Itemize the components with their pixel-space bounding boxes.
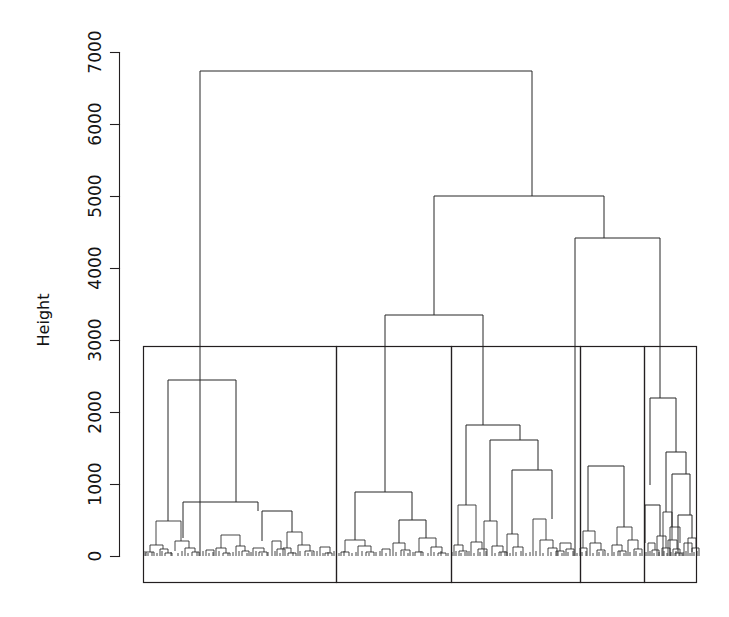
merge-c2-9 — [419, 538, 436, 552]
cluster-cut-rectangles — [144, 347, 697, 583]
y-tick-label-0: 0 — [85, 551, 105, 562]
merge-c5-2 — [652, 550, 659, 556]
y-tick-label-7000: 7000 — [85, 30, 105, 73]
merge-c2-11 — [431, 547, 442, 556]
merge-c1-14 — [242, 551, 249, 556]
y-axis: 7000 6000 5000 4000 3000 2000 1000 0 Hei… — [34, 30, 120, 561]
merge-c1-12 — [223, 553, 230, 556]
merge-c4-5 — [617, 527, 632, 545]
merge-c4-4 — [597, 550, 605, 556]
merge-c4-9 — [634, 549, 642, 556]
merge-c4-6 — [612, 545, 622, 556]
cluster-rect-1 — [144, 347, 337, 583]
merge-node-p — [262, 511, 292, 541]
merge-node-o — [645, 505, 660, 543]
merge-root — [200, 71, 532, 556]
merge-node-e — [168, 380, 236, 521]
dendrogram-tree — [145, 71, 699, 556]
merge-node-f — [650, 398, 676, 485]
merge-c3-2 — [454, 545, 463, 556]
merge-c3-11 — [533, 519, 546, 556]
y-tick-label-3000: 3000 — [85, 318, 105, 361]
merge-c3-1 — [458, 505, 476, 545]
merge-node-b — [434, 196, 604, 315]
dendrogram-plot: 7000 6000 5000 4000 3000 2000 1000 0 Hei… — [0, 0, 729, 617]
merge-c5-11 — [692, 548, 699, 556]
merge-c2-10 — [415, 552, 423, 556]
merge-c3-14 — [560, 543, 571, 551]
merge-c2-12 — [438, 553, 446, 556]
merge-c2-7 — [393, 543, 405, 556]
merge-c1-4 — [146, 552, 154, 556]
merge-c4-7 — [618, 551, 626, 556]
merge-c5-5 — [663, 512, 672, 556]
merge-c4-1 — [583, 531, 595, 548]
cluster-rect-5 — [645, 347, 697, 583]
merge-node-d — [385, 315, 483, 492]
merge-c1-8 — [192, 552, 199, 556]
merge-node-l — [672, 474, 690, 527]
merge-c2-8 — [401, 550, 410, 556]
merge-c3-6 — [484, 521, 497, 556]
merge-node-m — [355, 492, 412, 540]
y-tick-label-4000: 4000 — [85, 246, 105, 289]
y-tick-label-1000: 1000 — [85, 462, 105, 505]
merge-node-i — [666, 452, 686, 512]
merge-c1-11 — [216, 548, 226, 556]
merge-c1-16 — [259, 552, 267, 556]
y-tick-label-2000: 2000 — [85, 390, 105, 433]
merge-c1-5 — [160, 549, 168, 556]
merge-c2-6 — [399, 520, 426, 543]
merge-c3-3 — [459, 551, 467, 556]
merge-c1-3 — [175, 541, 189, 551]
merge-c5-3 — [657, 536, 666, 556]
y-axis-title: Height — [34, 294, 53, 347]
merge-c1-19 — [287, 532, 302, 548]
merge-node-j — [588, 466, 624, 531]
merge-c2-4 — [366, 552, 374, 556]
merge-c1-23 — [305, 551, 314, 556]
leaf-stub-band — [145, 551, 697, 556]
merge-c2-2 — [341, 552, 349, 556]
merge-node-n — [183, 502, 258, 538]
merge-c4-8 — [628, 540, 638, 556]
merge-c1-2 — [150, 545, 163, 552]
dendrogram-svg: 7000 6000 5000 4000 3000 2000 1000 0 Hei… — [0, 0, 729, 617]
merge-node-h — [490, 440, 538, 521]
merge-c1-18 — [277, 549, 285, 556]
merge-c3-8 — [499, 552, 507, 556]
y-tick-label-5000: 5000 — [85, 174, 105, 217]
merge-c3-10 — [513, 547, 523, 556]
merge-c1-21 — [288, 553, 296, 556]
merge-c1-25 — [325, 553, 332, 556]
y-tick-label-6000: 6000 — [85, 102, 105, 145]
